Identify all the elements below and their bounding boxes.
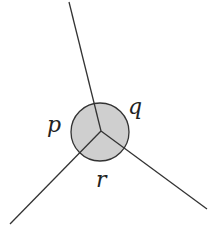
label-q: q [128, 96, 142, 118]
label-r: r [96, 169, 107, 191]
ray-bottom-right [101, 131, 207, 209]
angle-diagram [0, 0, 214, 235]
label-p: p [47, 114, 61, 136]
ray-bottom-left [10, 131, 101, 224]
